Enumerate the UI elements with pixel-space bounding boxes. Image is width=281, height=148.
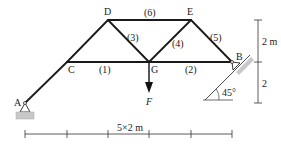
- member-CD: [67, 20, 108, 62]
- member-AC: [25, 62, 67, 103]
- angle-arc: [216, 89, 219, 100]
- member-label-2: (2): [185, 64, 197, 76]
- truss-diagram: D E C G B A (1) (2) (3) (4) (5) (6) F 45…: [0, 0, 281, 148]
- node-label-A: A: [14, 97, 22, 108]
- angle-label: 45°: [222, 87, 236, 98]
- node-label-G: G: [151, 64, 158, 75]
- member-label-4: (4): [172, 38, 184, 50]
- member-label-5: (5): [210, 32, 222, 44]
- member-label-6: (6): [144, 7, 156, 19]
- member-GE: [149, 20, 191, 62]
- vertical-dimension: [254, 20, 262, 103]
- node-label-D: D: [104, 6, 111, 17]
- node-label-E: E: [187, 6, 193, 17]
- horizontal-dimension-label: 5×2 m: [117, 122, 143, 133]
- node-label-C: C: [68, 64, 75, 75]
- member-label-3: (3): [127, 32, 139, 44]
- vertical-dimension-top-label: 2 m: [262, 36, 278, 47]
- vertical-dimension-bottom-label: 2: [262, 78, 267, 89]
- member-label-1: (1): [99, 64, 111, 76]
- node-label-B: B: [236, 51, 243, 62]
- load-label-F: F: [145, 96, 153, 107]
